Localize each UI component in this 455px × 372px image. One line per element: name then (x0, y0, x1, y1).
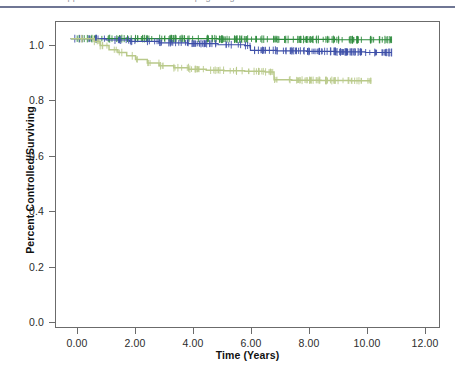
x-axis-title: Time (Years) (55, 349, 440, 361)
plot-area: Cause-specific Survival Overall Survival… (55, 21, 440, 328)
x-tick-label-8: 8.00 (299, 337, 320, 349)
y-tick-label-0.0: 0.0 (29, 316, 44, 328)
kaplan-meier-figure: 1.0 0.8 0.6 0.4 0.2 0.0 0.00 2.00 4.00 6… (0, 9, 455, 372)
x-tick-label-12: 12.00 (412, 337, 439, 349)
header-divider-rule (0, 6, 455, 8)
x-tick-label-2: 2.00 (125, 337, 146, 349)
x-tick-label-10: 10.00 (354, 337, 381, 349)
x-tick-mark-0 (77, 328, 78, 334)
x-tick-label-6: 6.00 (241, 337, 262, 349)
survival-curves (56, 22, 439, 327)
x-tick-mark-2 (135, 328, 136, 334)
clipped-page-header: clipped header text — cut off at page ed… (0, 0, 455, 9)
clipped-header-text: clipped header text — cut off at page ed… (58, 0, 240, 2)
x-tick-label-4: 4.00 (183, 337, 204, 349)
x-tick-label-0: 0.00 (67, 337, 88, 349)
y-tick-label-1.0: 1.0 (29, 39, 44, 51)
x-tick-mark-6 (251, 328, 252, 334)
x-tick-mark-8 (309, 328, 310, 334)
x-tick-mark-12 (425, 328, 426, 334)
y-axis-title: Percent Controlled/Surviving (24, 90, 36, 270)
x-tick-mark-10 (367, 328, 368, 334)
x-tick-mark-4 (193, 328, 194, 334)
